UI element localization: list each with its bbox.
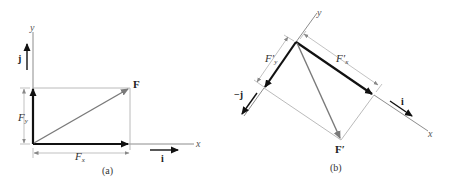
force-prime-label: F′: [335, 143, 345, 155]
figure-a: y x F Fy Fx j i (a): [17, 22, 201, 177]
fx-label: Fx: [74, 150, 86, 164]
neg-y-axis: [244, 88, 264, 116]
force-label: F: [133, 78, 140, 90]
y-axis-label: y: [29, 22, 35, 33]
y-axis-label: y: [316, 7, 322, 18]
figure-b: y x F′ F′x F′y −j i (b): [234, 7, 433, 174]
fx-prime-component-arrow: [296, 42, 372, 94]
fy-label: Fy: [17, 111, 29, 125]
caption-b: (b): [330, 162, 342, 174]
vector-components-diagram: y x F Fy Fx j i (a) y x: [0, 0, 450, 187]
fx-dim-tick-end: [376, 84, 382, 92]
unit-neg-j-label: −j: [234, 89, 243, 100]
fy-prime-component-arrow: [265, 42, 296, 87]
guide-line-right: [341, 95, 374, 140]
caption-a: (a): [102, 165, 113, 177]
unit-i-label: i: [401, 96, 404, 107]
fy-dim-tick-bottom: [254, 80, 264, 87]
fx-prime-label: F′x: [335, 52, 349, 66]
unit-neg-j-arrow: [242, 93, 257, 114]
x-axis-label: x: [427, 128, 433, 139]
x-axis-label: x: [195, 138, 201, 149]
fy-dim-tick-top: [284, 35, 294, 41]
y-axis: [296, 13, 317, 42]
unit-i-label: i: [161, 153, 164, 164]
resultant-force-arrow: [34, 89, 128, 143]
unit-j-label: j: [17, 53, 21, 64]
